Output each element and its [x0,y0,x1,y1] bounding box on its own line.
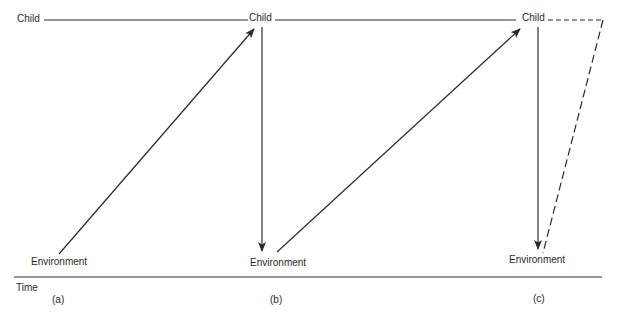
diagram-lines [0,0,617,321]
environment-label-a: Environment [31,256,87,268]
diagram-canvas: Child Child Child Environment Environmen… [0,0,617,321]
arrow-env-a-to-child-b [59,29,254,254]
time-marker-c: (c) [533,293,545,305]
arrow-env-b-to-child-c [277,29,520,252]
time-marker-b: (b) [270,294,282,306]
child-label-c: Child [522,12,545,24]
child-label-b: Child [249,12,272,24]
dashed-return-line [543,20,603,253]
time-marker-a: (a) [52,294,64,306]
environment-label-b: Environment [250,257,306,269]
child-label-a: Child [17,13,40,25]
time-axis-label: Time [16,282,38,294]
environment-label-c: Environment [509,254,565,266]
